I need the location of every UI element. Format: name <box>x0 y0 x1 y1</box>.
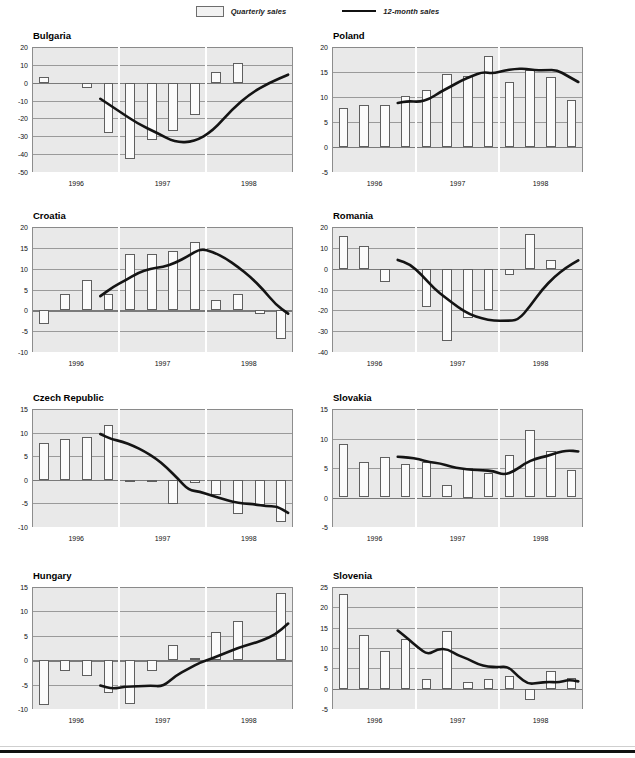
line-swatch-icon <box>342 10 376 12</box>
legend-entry-quarterly-sales: Quarterly sales <box>196 6 287 17</box>
legend-entry-12-month-sales: 12-month sales <box>342 7 439 16</box>
chart-title-slovenia: Slovenia <box>333 570 372 581</box>
legend-label-quarterly-sales: Quarterly sales <box>231 7 287 16</box>
footer-hairline <box>0 746 635 747</box>
y-tick-label-slovenia-10: 10 <box>303 645 328 652</box>
line-series-slovenia <box>333 587 582 709</box>
y-tick-label-slovenia-25: 25 <box>303 584 328 591</box>
y-axis-spine-left-slovenia <box>332 587 333 709</box>
y-tick-label-slovenia--5: -5 <box>303 706 328 713</box>
x-tick-label-slovenia-1996: 1996 <box>333 717 416 724</box>
plot-area-slovenia <box>333 587 582 709</box>
y-tick-label-slovenia-0: 0 <box>303 685 328 692</box>
x-tick-label-slovenia-1998: 1998 <box>499 717 582 724</box>
legend-label-12-month-sales: 12-month sales <box>383 7 439 16</box>
y-tick-label-slovenia-5: 5 <box>303 665 328 672</box>
bar-swatch-icon <box>196 6 224 17</box>
chart-legend: Quarterly sales 12-month sales <box>0 0 635 22</box>
y-axis-spine-right-slovenia <box>582 587 583 709</box>
chart-panel-grid: Bulgaria20100-10-20-30-40-50199619971998… <box>0 22 635 736</box>
y-tick-label-slovenia-15: 15 <box>303 624 328 631</box>
x-tick-label-slovenia-1997: 1997 <box>416 717 499 724</box>
plot-canvas-slovenia <box>333 587 582 709</box>
chart-panel-slovenia: Slovenia2520151050-5199619971998 <box>0 22 635 736</box>
y-tick-label-slovenia-20: 20 <box>303 604 328 611</box>
footer-rule <box>0 750 635 753</box>
